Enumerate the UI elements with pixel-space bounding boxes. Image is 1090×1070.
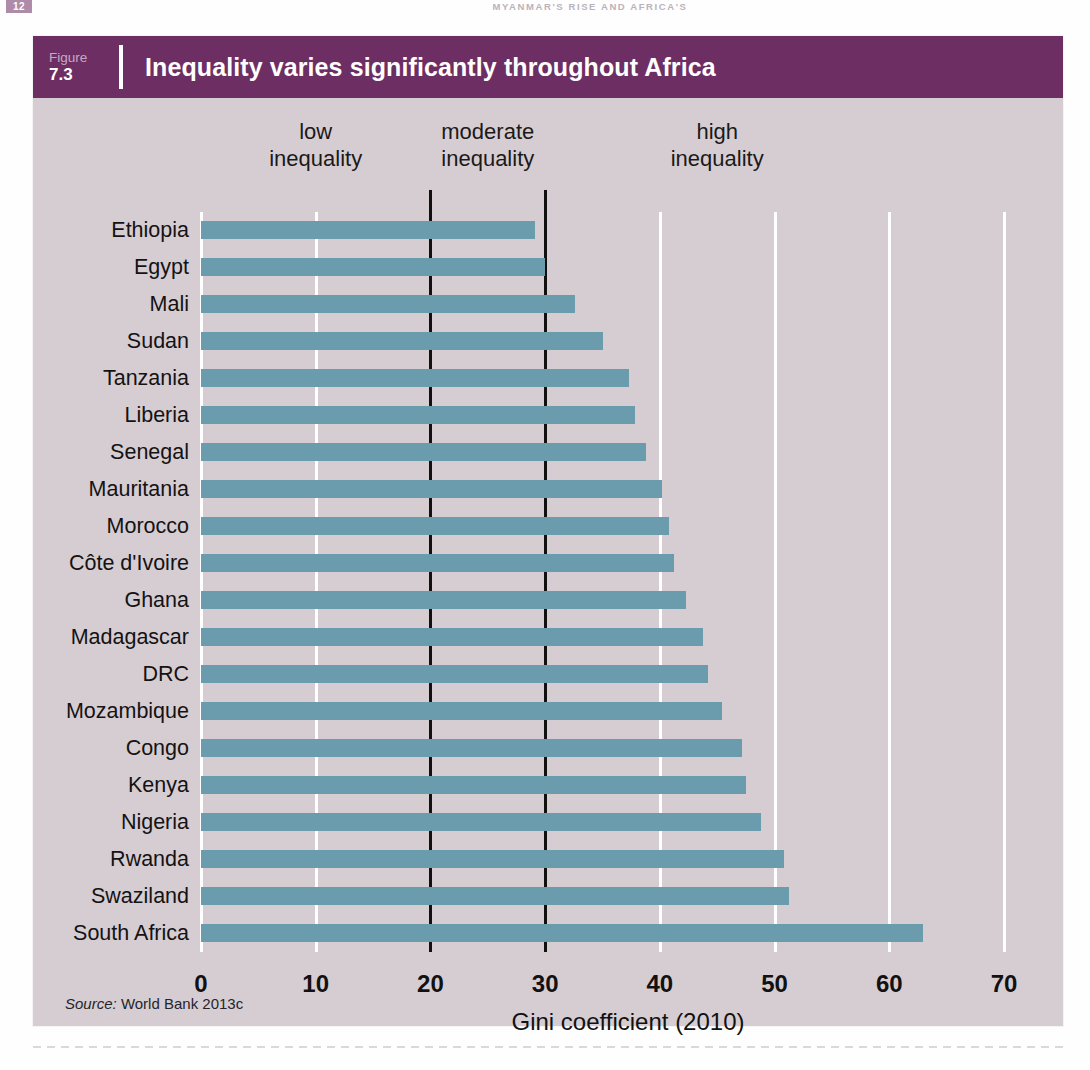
category-label: Ghana [33,582,193,619]
page-root: 12 MYANMAR'S RISE AND AFRICA'S Figure 7.… [0,0,1090,1070]
bar[interactable] [201,628,703,646]
x-tick-label-40: 40 [630,970,690,998]
bar-row[interactable]: Ethiopia [33,212,1063,249]
x-tick-label-20: 20 [400,970,460,998]
annotation-line-2: inequality [378,145,598,172]
category-label: Kenya [33,767,193,804]
category-label: Côte d'Ivoire [33,545,193,582]
bar-row[interactable]: Congo [33,730,1063,767]
category-label: Congo [33,730,193,767]
bar-row[interactable]: Mali [33,286,1063,323]
annotation-line-1: high [607,118,827,145]
bar[interactable] [201,517,669,535]
category-label: Ethiopia [33,212,193,249]
bar-row[interactable]: Liberia [33,397,1063,434]
figure-title: Inequality varies significantly througho… [145,53,716,82]
x-tick-label-30: 30 [515,970,575,998]
bar-row[interactable]: Mauritania [33,471,1063,508]
category-label: Egypt [33,249,193,286]
figure-number-block: Figure 7.3 [33,36,117,98]
bar[interactable] [201,591,686,609]
header-divider-rule [119,45,123,89]
bar-row[interactable]: Madagascar [33,619,1063,656]
bar[interactable] [201,850,784,868]
bar-row[interactable]: DRC [33,656,1063,693]
bar[interactable] [201,665,708,683]
category-label: Morocco [33,508,193,545]
x-axis: Gini coefficient (2010) 010203040506070 [33,952,1063,1026]
category-label: Mali [33,286,193,323]
category-label: Madagascar [33,619,193,656]
bar-row[interactable]: Swaziland [33,878,1063,915]
bar[interactable] [201,443,646,461]
bar[interactable] [201,554,674,572]
bar-row[interactable]: Mozambique [33,693,1063,730]
category-label: Sudan [33,323,193,360]
bar-row[interactable]: South Africa [33,915,1063,952]
category-label: Liberia [33,397,193,434]
annotation-moderate-inequality: moderateinequality [378,118,598,172]
source-label: Source: [65,995,117,1012]
category-label: Mozambique [33,693,193,730]
category-label: Mauritania [33,471,193,508]
bar[interactable] [201,702,722,720]
bar[interactable] [201,332,603,350]
x-tick-label-60: 60 [859,970,919,998]
page-number: 12 [6,0,32,13]
bar-row[interactable]: Morocco [33,508,1063,545]
bar-rows: EthiopiaEgyptMaliSudanTanzaniaLiberiaSen… [33,212,1063,952]
running-head: 12 MYANMAR'S RISE AND AFRICA'S [0,0,1090,26]
bar-row[interactable]: Côte d'Ivoire [33,545,1063,582]
plot-area: lowinequalitymoderateinequalityhighinequ… [33,98,1063,1026]
bar[interactable] [201,369,629,387]
category-label: Senegal [33,434,193,471]
category-label: Tanzania [33,360,193,397]
x-tick-label-10: 10 [286,970,346,998]
bar[interactable] [201,887,789,905]
annotation-high-inequality: highinequality [607,118,827,172]
category-label: Nigeria [33,804,193,841]
bar[interactable] [201,221,535,239]
category-label: South Africa [33,915,193,952]
bar[interactable] [201,480,662,498]
x-axis-title: Gini coefficient (2010) [33,1008,1063,1036]
bar[interactable] [201,813,761,831]
x-tick-label-50: 50 [745,970,805,998]
category-label: Swaziland [33,878,193,915]
category-label: DRC [33,656,193,693]
annotation-line-2: inequality [607,145,827,172]
source-value: World Bank 2013c [121,995,243,1012]
page-bottom-rule [33,1046,1063,1048]
figure-number-value: 7.3 [49,65,117,84]
bar[interactable] [201,406,635,424]
bar-row[interactable]: Egypt [33,249,1063,286]
bar-row[interactable]: Tanzania [33,360,1063,397]
bar-row[interactable]: Senegal [33,434,1063,471]
figure-panel: Figure 7.3 Inequality varies significant… [33,36,1063,1026]
x-tick-label-70: 70 [974,970,1034,998]
x-tick-label-0: 0 [171,970,231,998]
bar[interactable] [201,924,923,942]
category-label: Rwanda [33,841,193,878]
running-title: MYANMAR'S RISE AND AFRICA'S [330,1,850,12]
figure-number-word: Figure [49,50,117,65]
figure-header: Figure 7.3 Inequality varies significant… [33,36,1063,98]
bar-row[interactable]: Kenya [33,767,1063,804]
bar[interactable] [201,739,742,757]
bar[interactable] [201,258,545,276]
annotation-line-1: moderate [378,118,598,145]
bar-row[interactable]: Rwanda [33,841,1063,878]
bar-row[interactable]: Ghana [33,582,1063,619]
figure-source: Source: World Bank 2013c [65,995,243,1012]
bar-row[interactable]: Sudan [33,323,1063,360]
bar[interactable] [201,776,746,794]
bar[interactable] [201,295,575,313]
bar-row[interactable]: Nigeria [33,804,1063,841]
